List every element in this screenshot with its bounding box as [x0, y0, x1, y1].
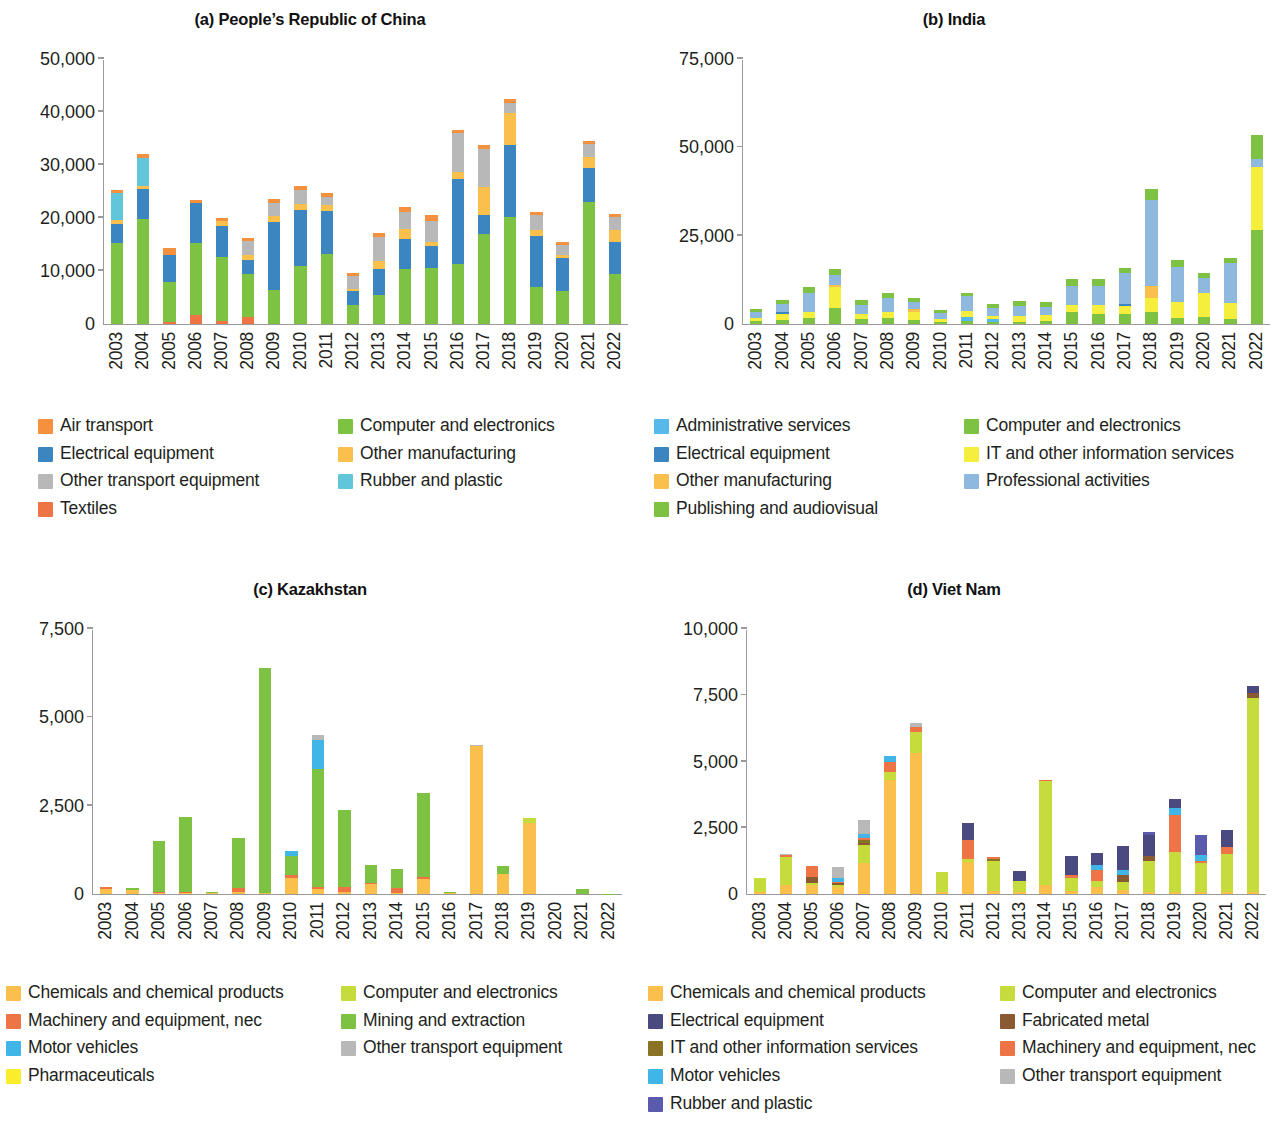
- stacked-bar[interactable]: [444, 892, 456, 894]
- bar-slot[interactable]: 2013: [358, 630, 384, 894]
- stacked-bar[interactable]: [962, 823, 974, 894]
- bar-slot[interactable]: 2019: [523, 60, 549, 324]
- bar-slot[interactable]: 2020: [1191, 60, 1217, 324]
- legend-item[interactable]: Air transport: [38, 415, 338, 436]
- legend-item[interactable]: Other transport equipment: [341, 1037, 641, 1058]
- stacked-bar[interactable]: [100, 887, 112, 894]
- bar-slot[interactable]: 2009: [901, 60, 927, 324]
- bar-slot[interactable]: 2021: [569, 630, 595, 894]
- bar-slot[interactable]: 2018: [490, 630, 516, 894]
- bar-slot[interactable]: 2021: [1214, 630, 1240, 894]
- legend-item[interactable]: IT and other information services: [964, 443, 1284, 464]
- legend-item[interactable]: Professional activities: [964, 470, 1284, 491]
- stacked-bar[interactable]: [497, 866, 509, 894]
- stacked-bar[interactable]: [934, 310, 946, 324]
- bar-slot[interactable]: 2005: [156, 60, 182, 324]
- bar-slot[interactable]: 2018: [497, 60, 523, 324]
- bar-slot[interactable]: 2015: [410, 630, 436, 894]
- legend-item[interactable]: Motor vehicles: [648, 1065, 1000, 1086]
- legend-item[interactable]: Computer and electronics: [1000, 982, 1287, 1003]
- bar-slot[interactable]: 2022: [1244, 60, 1270, 324]
- bar-slot[interactable]: 2009: [252, 630, 278, 894]
- legend-item[interactable]: Other transport equipment: [1000, 1065, 1287, 1086]
- bar-slot[interactable]: 2003: [93, 630, 119, 894]
- stacked-bar[interactable]: [609, 214, 621, 324]
- legend-item[interactable]: Chemicals and chemical products: [6, 982, 341, 1003]
- legend-item[interactable]: Textiles: [38, 498, 338, 519]
- bar-slot[interactable]: 2016: [445, 60, 471, 324]
- legend-item[interactable]: Other manufacturing: [338, 443, 638, 464]
- bar-slot[interactable]: 2011: [954, 60, 980, 324]
- bar-slot[interactable]: 2008: [877, 630, 903, 894]
- bar-slot[interactable]: 2022: [1240, 630, 1266, 894]
- stacked-bar[interactable]: [1247, 686, 1259, 894]
- stacked-bar[interactable]: [470, 745, 482, 894]
- bar-slot[interactable]: 2004: [119, 630, 145, 894]
- bar-slot[interactable]: 2005: [796, 60, 822, 324]
- stacked-bar[interactable]: [163, 248, 175, 324]
- stacked-bar[interactable]: [1145, 189, 1157, 324]
- bar-slot[interactable]: 2020: [543, 630, 569, 894]
- bar-slot[interactable]: 2017: [1110, 630, 1136, 894]
- legend-item[interactable]: Electrical equipment: [38, 443, 338, 464]
- bar-slot[interactable]: 2020: [549, 60, 575, 324]
- bar-slot[interactable]: 2011: [305, 630, 331, 894]
- stacked-bar[interactable]: [1117, 846, 1129, 894]
- stacked-bar[interactable]: [294, 186, 306, 324]
- stacked-bar[interactable]: [1119, 268, 1131, 325]
- stacked-bar[interactable]: [1040, 302, 1052, 324]
- bar-slot[interactable]: 2014: [1033, 60, 1059, 324]
- bar-slot[interactable]: 2009: [261, 60, 287, 324]
- bar-slot[interactable]: 2008: [225, 630, 251, 894]
- stacked-bar[interactable]: [1065, 856, 1077, 894]
- bar-slot[interactable]: 2008: [235, 60, 261, 324]
- bar-slot[interactable]: 2012: [981, 630, 1007, 894]
- stacked-bar[interactable]: [776, 300, 788, 324]
- stacked-bar[interactable]: [530, 212, 542, 324]
- bar-slot[interactable]: 2017: [463, 630, 489, 894]
- bar-slot[interactable]: 2003: [743, 60, 769, 324]
- bar-slot[interactable]: 2012: [331, 630, 357, 894]
- bar-slot[interactable]: 2006: [822, 60, 848, 324]
- stacked-bar[interactable]: [884, 756, 896, 894]
- stacked-bar[interactable]: [365, 865, 377, 894]
- stacked-bar[interactable]: [179, 817, 191, 894]
- stacked-bar[interactable]: [373, 233, 385, 324]
- bar-slot[interactable]: 2006: [183, 60, 209, 324]
- bar-slot[interactable]: 2005: [146, 630, 172, 894]
- stacked-bar[interactable]: [391, 869, 403, 894]
- legend-item[interactable]: Computer and electronics: [964, 415, 1284, 436]
- legend-item[interactable]: Pharmaceuticals: [6, 1065, 341, 1086]
- legend-item[interactable]: Rubber and plastic: [338, 470, 638, 491]
- stacked-bar[interactable]: [111, 190, 123, 324]
- bar-slot[interactable]: 2007: [851, 630, 877, 894]
- stacked-bar[interactable]: [216, 218, 228, 325]
- stacked-bar[interactable]: [1221, 830, 1233, 894]
- bar-slot[interactable]: 2003: [747, 630, 773, 894]
- bar-slot[interactable]: 2014: [392, 60, 418, 324]
- stacked-bar[interactable]: [1198, 273, 1210, 324]
- stacked-bar[interactable]: [523, 818, 535, 894]
- legend-item[interactable]: Publishing and audiovisual: [654, 498, 964, 519]
- stacked-bar[interactable]: [576, 889, 588, 894]
- bar-slot[interactable]: 2018: [1136, 630, 1162, 894]
- stacked-bar[interactable]: [780, 854, 792, 895]
- legend-item[interactable]: IT and other information services: [648, 1037, 1000, 1058]
- legend-item[interactable]: Motor vehicles: [6, 1037, 341, 1058]
- legend-item[interactable]: Other manufacturing: [654, 470, 964, 491]
- bar-slot[interactable]: 2012: [980, 60, 1006, 324]
- stacked-bar[interactable]: [1143, 832, 1155, 894]
- legend-item[interactable]: Other transport equipment: [38, 470, 338, 491]
- bar-slot[interactable]: 2022: [596, 630, 622, 894]
- stacked-bar[interactable]: [1013, 301, 1025, 324]
- bar-slot[interactable]: 2004: [769, 60, 795, 324]
- bar-slot[interactable]: 2021: [576, 60, 602, 324]
- bar-slot[interactable]: 2014: [1032, 630, 1058, 894]
- bar-slot[interactable]: 2010: [278, 630, 304, 894]
- stacked-bar[interactable]: [126, 888, 138, 894]
- stacked-bar[interactable]: [1195, 835, 1207, 894]
- bar-slot[interactable]: 2006: [825, 630, 851, 894]
- bar-slot[interactable]: 2012: [340, 60, 366, 324]
- bar-slot[interactable]: 2017: [471, 60, 497, 324]
- legend-item[interactable]: Mining and extraction: [341, 1010, 641, 1031]
